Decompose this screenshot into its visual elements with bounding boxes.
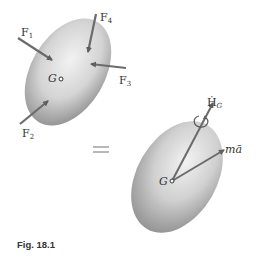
force-f3-label: F3: [119, 75, 131, 88]
equals-sign-bottom: [93, 151, 109, 153]
center-of-mass-label-right: G: [159, 176, 168, 187]
force-f2-label: F2: [22, 128, 34, 141]
equals-sign-top: [93, 146, 109, 148]
center-of-mass-marker-right: [170, 179, 174, 183]
force-f4-label: F4: [100, 12, 112, 25]
angular-momentum-rate-label: ḢG: [207, 97, 222, 110]
center-of-mass-label-left: G: [48, 73, 57, 84]
figure-caption: Fig. 18.1: [17, 239, 55, 250]
inertia-vector-label: mā: [225, 144, 242, 155]
center-of-mass-marker-left: [59, 77, 63, 81]
diagram-canvas: [0, 0, 258, 264]
force-f1-label: F1: [21, 27, 33, 40]
